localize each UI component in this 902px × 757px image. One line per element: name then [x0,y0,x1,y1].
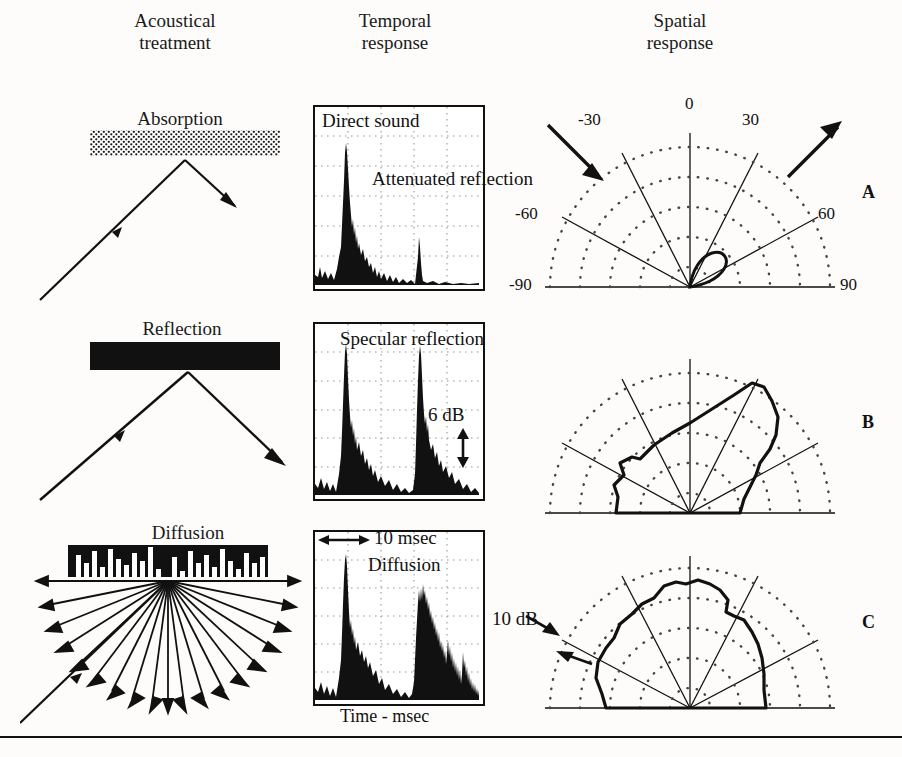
reflection-diagram [30,340,310,510]
polar-angle-label-a-neg90: -90 [509,275,532,295]
polar-angle-label-a-30: 30 [742,110,759,130]
column-header-line2: response [590,32,770,54]
temporal-scale-label-10msec: 10 msec [374,527,437,549]
polar-scale-label-10db: 10 dB [492,608,538,630]
column-header-line1: Temporal [305,10,485,32]
row-letter-a: A [862,182,875,203]
polar-plot-a [520,95,860,295]
figure-canvas: Acoustical treatment Temporal response S… [0,0,902,757]
treatment-label-absorption: Absorption [100,108,260,130]
reflector-surface [90,342,280,370]
column-header-temporal-response: Temporal response [305,10,485,55]
polar-plot-c [520,528,860,716]
column-header-line1: Acoustical [85,10,265,32]
absorber-surface [90,130,280,156]
scatter-arrows [36,576,300,713]
scale-arrow-6db [452,428,474,468]
treatment-label-reflection: Reflection [102,318,262,340]
polar-grid-a [545,133,835,287]
row-letter-b: B [862,412,874,433]
specular-reflection-text: Specular reflection [340,328,484,349]
temporal-annotation-diffusion-c: Diffusion [368,554,440,576]
polar-angle-label-a-neg60: -60 [515,204,538,224]
scale-arrow-10msec [318,532,370,548]
treatment-label-diffusion: Diffusion [108,522,268,544]
axis-label-time: Time - msec [340,706,429,727]
polar-grid-c [545,556,835,708]
column-header-line2: response [305,32,485,54]
column-header-line1: Spatial [590,10,770,32]
polar-angle-label-a-90: 90 [840,275,857,295]
figure-bottom-rule [0,736,902,738]
temporal-scale-label-6db: 6 dB [428,404,464,426]
incident-arrow-a [548,125,604,181]
reflected-arrow-a [788,121,842,177]
polar-angle-label-a-neg30: -30 [578,110,601,130]
diffuser-surface [68,545,268,577]
column-header-line2: treatment [85,32,265,54]
attenuated-reflection-text: Attenuated reflection [372,168,533,189]
column-header-spatial-response: Spatial response [590,10,770,55]
absorption-diagram [30,128,310,308]
temporal-annotation-specular-reflection-b: Specular reflection [340,328,460,350]
polar-curve-c [596,580,766,708]
polar-angle-label-a-0: 0 [685,94,694,114]
polar-angle-label-a-60: 60 [818,204,835,224]
polar-grid-b [545,359,835,513]
temporal-annotation-direct-sound-a: Direct sound [322,110,420,132]
temporal-plot-a [313,105,485,291]
row-letter-c: C [862,612,875,633]
diffusion-diagram [20,545,315,725]
temporal-annotation-attenuated-reflection-a: Attenuated reflection [372,168,476,190]
polar-plot-b [520,325,860,520]
column-header-acoustical-treatment: Acoustical treatment [85,10,265,55]
